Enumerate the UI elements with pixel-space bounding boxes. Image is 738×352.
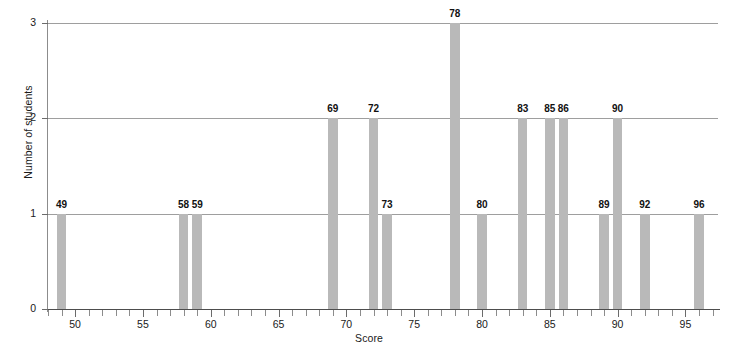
x-tick-mark-67: [306, 310, 307, 316]
x-tick-mark-63: [251, 310, 252, 316]
x-tick-mark-97: [713, 310, 714, 316]
x-tick-mark-68: [319, 310, 320, 316]
x-tick-mark-81: [496, 310, 497, 316]
x-tick-mark-92: [645, 310, 646, 316]
x-tick-mark-76: [428, 310, 429, 316]
bar-value-label: 80: [465, 199, 499, 210]
x-tick-mark-65: [279, 310, 280, 317]
x-axis-title: Score: [0, 332, 738, 344]
x-tick-mark-75: [414, 310, 415, 317]
x-tick-mark-80: [482, 310, 483, 317]
score-histogram-chart: Number of students Score 0123 5055606570…: [0, 0, 738, 352]
bar-value-label: 96: [682, 199, 716, 210]
bar: [179, 214, 189, 309]
x-tick-label-95: 95: [665, 318, 705, 330]
bar: [477, 214, 487, 309]
x-tick-mark-60: [211, 310, 212, 317]
x-tick-mark-87: [577, 310, 578, 316]
y-tick-label-0: 0: [12, 302, 36, 314]
x-tick-mark-66: [292, 310, 293, 316]
x-tick-mark-78: [455, 310, 456, 316]
bar: [640, 214, 650, 309]
x-tick-mark-86: [563, 310, 564, 316]
x-tick-mark-84: [536, 310, 537, 316]
x-tick-mark-90: [618, 310, 619, 317]
x-tick-mark-57: [170, 310, 171, 316]
bar: [613, 118, 623, 309]
x-tick-label-80: 80: [462, 318, 502, 330]
x-tick-label-90: 90: [598, 318, 638, 330]
x-tick-mark-58: [184, 310, 185, 316]
bar: [694, 214, 704, 309]
x-tick-mark-62: [238, 310, 239, 316]
x-tick-mark-64: [265, 310, 266, 316]
bar: [450, 23, 460, 309]
bar-value-label: 69: [316, 103, 350, 114]
y-tick-label-3: 3: [12, 16, 36, 28]
x-tick-mark-71: [360, 310, 361, 316]
y-tick-label-1: 1: [12, 207, 36, 219]
bar: [192, 214, 202, 309]
x-tick-mark-88: [591, 310, 592, 316]
y-tick-mark-3: [42, 23, 48, 24]
bar: [545, 118, 555, 309]
x-tick-label-65: 65: [259, 318, 299, 330]
bar: [599, 214, 609, 309]
x-tick-mark-73: [387, 310, 388, 316]
x-tick-mark-59: [197, 310, 198, 316]
x-tick-mark-49: [62, 310, 63, 316]
x-tick-mark-82: [509, 310, 510, 316]
x-tick-mark-94: [672, 310, 673, 316]
gridline-y-3: [48, 23, 718, 24]
bar: [57, 214, 67, 309]
x-tick-mark-72: [374, 310, 375, 316]
bar: [518, 118, 528, 309]
x-tick-label-55: 55: [123, 318, 163, 330]
bar-value-label: 78: [438, 8, 472, 19]
x-tick-mark-79: [468, 310, 469, 316]
x-tick-label-85: 85: [530, 318, 570, 330]
x-tick-mark-53: [116, 310, 117, 316]
bar: [328, 118, 338, 309]
x-tick-label-50: 50: [55, 318, 95, 330]
y-axis-title: Number of students: [22, 52, 34, 212]
bar: [382, 214, 392, 309]
x-tick-mark-69: [333, 310, 334, 316]
x-tick-mark-93: [658, 310, 659, 316]
x-tick-mark-51: [89, 310, 90, 316]
x-tick-mark-74: [401, 310, 402, 316]
bar: [369, 118, 379, 309]
bar-value-label: 90: [601, 103, 635, 114]
x-axis-line: [48, 309, 720, 310]
x-tick-mark-55: [143, 310, 144, 317]
bar-value-label: 92: [628, 199, 662, 210]
x-tick-label-70: 70: [326, 318, 366, 330]
x-tick-mark-96: [699, 310, 700, 316]
x-tick-mark-83: [523, 310, 524, 316]
x-tick-label-60: 60: [191, 318, 231, 330]
bar-value-label: 86: [546, 103, 580, 114]
x-tick-label-75: 75: [394, 318, 434, 330]
bar: [559, 118, 569, 309]
bar-value-label: 72: [357, 103, 391, 114]
x-tick-mark-95: [685, 310, 686, 317]
y-tick-mark-1: [42, 214, 48, 215]
bar-value-label: 59: [180, 199, 214, 210]
x-tick-mark-52: [102, 310, 103, 316]
x-tick-mark-54: [129, 310, 130, 316]
x-tick-mark-77: [441, 310, 442, 316]
x-tick-mark-70: [346, 310, 347, 317]
y-tick-label-2: 2: [12, 111, 36, 123]
x-tick-mark-61: [224, 310, 225, 316]
bar-value-label: 73: [370, 199, 404, 210]
bar-value-label: 49: [45, 199, 79, 210]
y-tick-mark-2: [42, 118, 48, 119]
x-tick-mark-48: [48, 310, 49, 316]
x-tick-mark-91: [631, 310, 632, 316]
x-tick-mark-50: [75, 310, 76, 317]
x-tick-mark-56: [157, 310, 158, 316]
x-tick-mark-89: [604, 310, 605, 316]
x-tick-mark-85: [550, 310, 551, 317]
